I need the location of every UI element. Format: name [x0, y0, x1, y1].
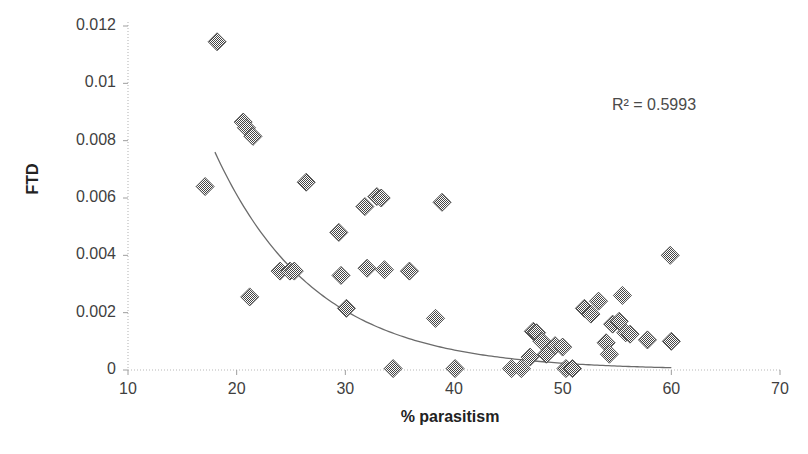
diamond-marker-icon	[662, 332, 680, 350]
diamond-marker-icon	[613, 286, 631, 304]
x-tick-label: 10	[98, 380, 158, 398]
r-squared-annotation: R² = 0.5993	[612, 96, 696, 114]
data-point-marker	[375, 261, 393, 279]
data-point-marker	[241, 288, 259, 306]
data-point-marker	[427, 309, 445, 327]
x-tick-label: 50	[533, 380, 593, 398]
diamond-marker-icon	[358, 259, 376, 277]
diamond-marker-icon	[241, 288, 259, 306]
y-tick-label: 0.006	[26, 188, 116, 206]
y-tick-label: 0.004	[26, 245, 116, 263]
x-tick-label: 40	[424, 380, 484, 398]
data-point-marker	[613, 286, 631, 304]
x-tick-label: 30	[315, 380, 375, 398]
diamond-marker-icon	[196, 178, 214, 196]
data-point-marker	[330, 223, 348, 241]
diamond-marker-icon	[330, 223, 348, 241]
diamond-marker-icon	[638, 331, 656, 349]
data-point-marker	[661, 246, 679, 264]
data-point-marker	[384, 360, 402, 378]
diamond-marker-icon	[297, 173, 315, 191]
diamond-marker-icon	[427, 309, 445, 327]
data-point-marker	[358, 259, 376, 277]
x-tick-label: 70	[750, 380, 808, 398]
data-point-group	[196, 33, 680, 378]
diamond-marker-icon	[446, 360, 464, 378]
data-point-marker	[196, 178, 214, 196]
axis-lines	[123, 22, 780, 375]
diamond-marker-icon	[208, 33, 226, 51]
trend-line	[215, 152, 671, 368]
data-point-marker	[433, 193, 451, 211]
trend-line-path	[215, 152, 671, 368]
x-axis-title: % parasitism	[330, 408, 570, 426]
x-tick-label: 20	[207, 380, 267, 398]
data-point-marker	[208, 33, 226, 51]
data-point-marker	[400, 262, 418, 280]
diamond-marker-icon	[332, 266, 350, 284]
scatter-chart-figure: FTD % parasitism R² = 0.5993 00.0020.004…	[0, 0, 808, 454]
diamond-marker-icon	[433, 193, 451, 211]
data-point-marker	[332, 266, 350, 284]
data-point-marker	[446, 360, 464, 378]
y-tick-label: 0.008	[26, 131, 116, 149]
x-tick-label: 60	[641, 380, 701, 398]
diamond-marker-icon	[661, 246, 679, 264]
y-tick-label: 0.01	[26, 73, 116, 91]
diamond-marker-icon	[400, 262, 418, 280]
y-tick-label: 0	[26, 360, 116, 378]
diamond-marker-icon	[384, 360, 402, 378]
y-tick-label: 0.002	[26, 303, 116, 321]
y-tick-label: 0.012	[26, 16, 116, 34]
data-point-marker	[638, 331, 656, 349]
data-point-marker	[297, 173, 315, 191]
diamond-marker-icon	[375, 261, 393, 279]
data-point-marker	[662, 332, 680, 350]
